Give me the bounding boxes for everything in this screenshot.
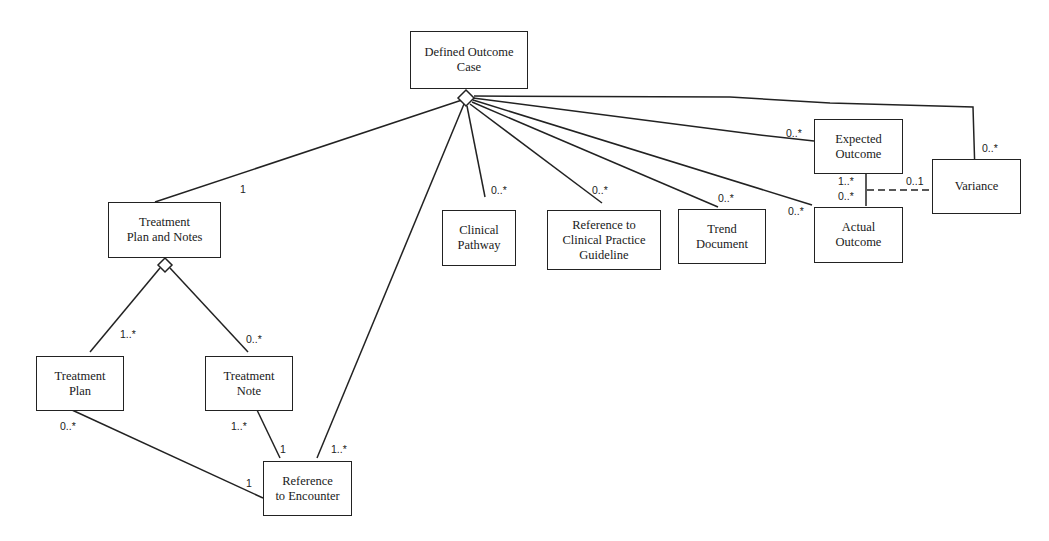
class-variance: Variance <box>932 159 1021 214</box>
mult-doc-tpn: 1 <box>240 183 246 195</box>
mult-doc-variance: 0..* <box>982 142 998 154</box>
mult-variance-link: 0..1 <box>906 175 924 187</box>
line-doc-tpn <box>155 100 462 202</box>
mult-doc-pathway: 0..* <box>491 184 507 196</box>
mult-doc-trend: 0..* <box>718 192 734 204</box>
line-note-encounter <box>257 410 280 458</box>
mult-doc-actual: 0..* <box>788 205 804 217</box>
mult-doc-expected: 0..* <box>786 127 802 139</box>
mult-plan-encounter: 0..* <box>60 420 76 432</box>
mult-expected-actual-bottom: 0..* <box>838 190 854 202</box>
mult-expected-actual-top: 1..* <box>838 175 854 187</box>
line-doc-pathway <box>467 106 485 197</box>
class-expected-outcome: Expected Outcome <box>814 119 903 174</box>
line-doc-expected <box>473 98 814 141</box>
class-treatment-plan: Treatment Plan <box>36 356 124 411</box>
line-tpn-note <box>170 268 248 352</box>
mult-note-encounter: 1..* <box>231 420 247 432</box>
mult-tpn-plan: 1..* <box>120 328 136 340</box>
class-reference-to-encounter: Reference to Encounter <box>263 461 352 516</box>
aggregation-diamond-doc <box>458 90 474 106</box>
mult-tpn-note: 0..* <box>246 333 262 345</box>
mult-doc-cpg: 0..* <box>592 184 608 196</box>
line-doc-encounter <box>317 104 464 458</box>
mult-doc-encounter: 1..* <box>331 443 347 455</box>
aggregation-diamond-tpn <box>158 258 172 272</box>
class-trend-document: Trend Document <box>678 209 766 264</box>
class-defined-outcome-case: Defined Outcome Case <box>410 31 528 89</box>
mult-encounter-from-plan: 1 <box>246 477 252 489</box>
class-treatment-plan-and-notes: Treatment Plan and Notes <box>108 202 221 258</box>
class-actual-outcome: Actual Outcome <box>814 207 903 263</box>
class-treatment-note: Treatment Note <box>205 356 293 411</box>
class-reference-cpg: Reference to Clinical Practice Guideline <box>547 210 661 270</box>
mult-encounter-from-note: 1 <box>280 443 286 455</box>
line-doc-actual <box>473 100 812 205</box>
class-clinical-pathway: Clinical Pathway <box>442 210 516 266</box>
